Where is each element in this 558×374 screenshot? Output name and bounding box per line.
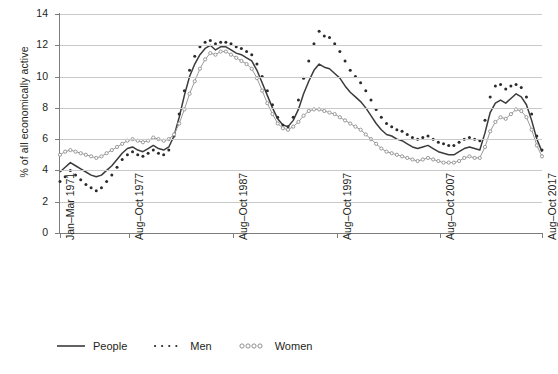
legend-label-people: People <box>93 340 127 352</box>
x-tick-label: Aug–Oct 1977 <box>133 173 145 240</box>
y-tick-mark <box>55 139 60 140</box>
y-tick-label: 0 <box>14 226 48 238</box>
y-tick-label: 10 <box>14 70 48 82</box>
y-tick-label: 6 <box>14 132 48 144</box>
y-tick-label: 2 <box>14 195 48 207</box>
y-tick-label: 4 <box>14 163 48 175</box>
x-tick-label: Aug–Oct 2017 <box>546 173 558 240</box>
gridline <box>60 77 542 78</box>
x-tick-label: Aug–Oct 2007 <box>444 173 456 240</box>
legend-label-men: Men <box>190 340 211 352</box>
y-tick-mark <box>55 202 60 203</box>
dotted-line-swatch <box>153 341 183 351</box>
gridline <box>60 139 542 140</box>
y-tick-mark <box>55 77 60 78</box>
x-tick-label: Aug–Oct 1987 <box>237 173 249 240</box>
y-tick-mark <box>55 14 60 15</box>
x-tick-label: Jan–Mar 1971 <box>64 173 76 240</box>
gridline <box>60 108 542 109</box>
chart-legend: People Men Women <box>56 340 312 352</box>
y-tick-mark <box>55 108 60 109</box>
legend-item-women: Women <box>238 340 313 352</box>
x-tick-mark <box>233 233 234 238</box>
x-tick-mark <box>542 233 543 238</box>
y-tick-mark <box>55 170 60 171</box>
y-tick-label: 14 <box>14 7 48 19</box>
x-tick-mark <box>440 233 441 238</box>
gridline <box>60 170 542 171</box>
x-tick-mark <box>129 233 130 238</box>
solid-line-swatch <box>56 341 86 351</box>
legend-label-women: Women <box>275 340 313 352</box>
legend-item-men: Men <box>153 340 211 352</box>
y-tick-mark <box>55 45 60 46</box>
x-tick-mark <box>337 233 338 238</box>
legend-item-people: People <box>56 340 127 352</box>
gridline <box>60 45 542 46</box>
y-tick-label: 12 <box>14 38 48 50</box>
y-tick-label: 8 <box>14 101 48 113</box>
x-tick-label: Aug–Oct 1997 <box>341 173 353 240</box>
x-tick-mark <box>60 233 61 238</box>
series-dots-men <box>59 30 544 193</box>
circle-chain-swatch <box>238 341 268 351</box>
x-axis-line <box>59 233 543 234</box>
gridline <box>60 14 542 15</box>
